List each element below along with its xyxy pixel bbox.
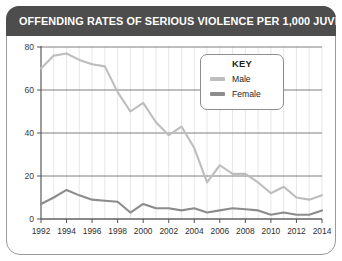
legend-swatch-male <box>210 77 225 81</box>
x-tick-label: 1992 <box>32 226 51 236</box>
y-tick-label: 60 <box>24 85 34 95</box>
x-tick-label: 1994 <box>57 226 76 236</box>
page-title: OFFENDING RATES OF SERIOUS VIOLENCE PER … <box>19 15 342 27</box>
legend-swatch-female <box>210 92 225 96</box>
line-chart: 0204060801992199419961998200020022004200… <box>6 36 336 255</box>
x-tick-label: 2000 <box>134 226 153 236</box>
x-tick-label: 2008 <box>236 226 255 236</box>
x-tick-label: 2002 <box>159 226 178 236</box>
x-tick-label: 1996 <box>83 226 102 236</box>
x-tick-label: 2006 <box>210 226 229 236</box>
legend-label-female: Female <box>232 89 261 99</box>
legend-item-female: Female <box>201 89 283 99</box>
legend-label-male: Male <box>232 74 251 84</box>
chart-legend: KEY Male Female <box>200 54 284 110</box>
y-tick-label: 0 <box>29 214 34 224</box>
plot-area: 0204060801992199419961998200020022004200… <box>6 36 336 255</box>
x-tick-label: 2010 <box>262 226 281 236</box>
y-tick-label: 40 <box>24 128 34 138</box>
legend-heading: KEY <box>201 58 283 69</box>
chart-screenshot: OFFENDING RATES OF SERIOUS VIOLENCE PER … <box>0 0 342 261</box>
y-tick-label: 20 <box>24 171 34 181</box>
y-tick-label: 80 <box>24 42 34 52</box>
x-tick-label: 2004 <box>185 226 204 236</box>
x-tick-label: 2012 <box>287 226 306 236</box>
x-tick-label: 2014 <box>313 226 332 236</box>
legend-item-male: Male <box>201 74 283 84</box>
chart-title-banner: OFFENDING RATES OF SERIOUS VIOLENCE PER … <box>6 6 336 36</box>
x-tick-label: 1998 <box>108 226 127 236</box>
